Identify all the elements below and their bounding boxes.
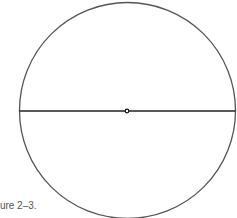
circle-diagram <box>0 0 237 218</box>
center-point <box>125 109 129 113</box>
figure-caption: Figure 2–3. <box>0 200 37 211</box>
